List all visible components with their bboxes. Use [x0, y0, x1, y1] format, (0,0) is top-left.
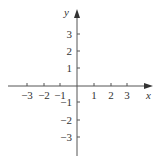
x-axis-label: x — [145, 89, 151, 101]
x-tick-label: 1 — [91, 89, 97, 101]
x-tick-label: −3 — [21, 89, 33, 101]
x-tick-label: 2 — [108, 89, 114, 101]
y-tick-label: 3 — [67, 28, 73, 40]
y-tick-label: −2 — [60, 114, 72, 126]
y-tick-label: −3 — [60, 131, 72, 143]
coordinate-plane-figure: −3−2−1123 321−1−2−3 x y — [0, 0, 165, 159]
y-axis-arrow-icon — [74, 9, 80, 18]
y-tick-label: −1 — [60, 96, 72, 108]
y-tick-label: 1 — [67, 62, 73, 74]
y-axis-label: y — [63, 6, 69, 18]
x-tick-label: −2 — [38, 89, 50, 101]
y-tick-label: 2 — [67, 45, 73, 57]
x-tick-label: 3 — [124, 89, 130, 101]
coordinate-plane-svg: −3−2−1123 321−1−2−3 x y — [0, 0, 165, 159]
